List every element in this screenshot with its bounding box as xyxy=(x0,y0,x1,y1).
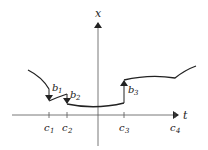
curve-segment-2 xyxy=(49,94,67,101)
tick-c1: c 1 xyxy=(44,112,54,135)
tick-c4: c 4 xyxy=(170,112,180,135)
svg-text:2: 2 xyxy=(75,94,81,102)
curve-segment-3 xyxy=(67,103,124,107)
svg-text:3: 3 xyxy=(134,89,139,97)
svg-text:1: 1 xyxy=(58,87,62,95)
svg-text:2: 2 xyxy=(67,127,73,135)
jump-label-b3: b 3 xyxy=(128,84,139,97)
jump-label-b2: b 2 xyxy=(70,89,81,102)
t-axis-label: t xyxy=(183,109,188,122)
curve-segment-1 xyxy=(28,70,49,89)
x-axis-label: x xyxy=(95,7,102,20)
curve-segment-4 xyxy=(124,66,196,80)
jump-function-diagram: t x c 1 c 2 c 3 c 4 b 1 b 2 b 3 xyxy=(0,0,208,150)
tick-c3: c 3 xyxy=(119,112,130,135)
svg-text:1: 1 xyxy=(50,127,54,135)
svg-text:3: 3 xyxy=(125,127,130,135)
jump-label-b1: b 1 xyxy=(52,82,62,95)
svg-text:4: 4 xyxy=(175,127,180,135)
tick-c2: c 2 xyxy=(62,112,73,135)
